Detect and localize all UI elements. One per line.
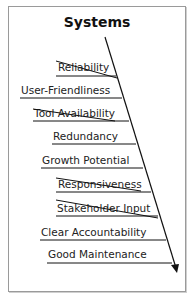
branch-reliability: Reliability	[56, 61, 117, 78]
branch-growth-potential: Growth Potential	[41, 154, 143, 168]
branch-label: Redundancy	[53, 130, 118, 142]
branch-tool-availability: Tool Availability	[33, 107, 129, 121]
branch-user-friendliness: User-Friendliness	[20, 84, 122, 98]
fishbone-diagram: Systems Reliability User-Friendliness To…	[0, 0, 193, 296]
branch-label: Tool Availability	[33, 107, 115, 119]
branch-clear-accountability: Clear Accountability	[40, 226, 166, 240]
diagram-title: Systems	[64, 14, 131, 30]
branch-label: Clear Accountability	[41, 226, 146, 238]
branch-good-maintenance: Good Maintenance	[47, 248, 172, 263]
branch-label: Growth Potential	[42, 154, 129, 166]
branch-responsiveness: Responsiveness	[56, 178, 151, 192]
branch-label: User-Friendliness	[21, 84, 110, 96]
branch-stakeholder-input: Stakeholder Input	[56, 200, 158, 218]
branch-label: Good Maintenance	[48, 248, 147, 260]
branch-label: Reliability	[58, 61, 109, 73]
arrowhead-icon	[171, 264, 179, 273]
branch-redundancy: Redundancy	[52, 130, 136, 144]
